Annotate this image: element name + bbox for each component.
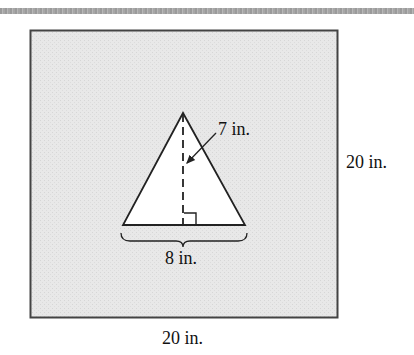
triangle-base-label: 8 in. [165, 249, 197, 267]
diagram-canvas [0, 0, 414, 355]
square-side-right-label: 20 in. [346, 153, 387, 171]
square-side-bottom-label: 20 in. [162, 329, 203, 347]
triangle-height-label: 7 in. [218, 120, 250, 138]
